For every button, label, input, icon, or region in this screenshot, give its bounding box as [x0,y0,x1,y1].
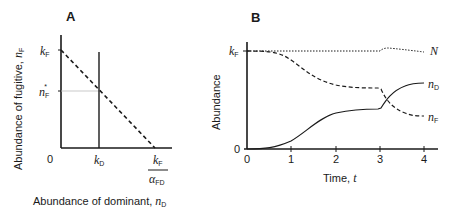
panel-b: B kF 0 0 1 2 3 4 N nD nF Time, t Abund [210,10,439,185]
panel-a: A kF nF* 0 kD kF αFD Abundance of domina… [11,9,172,208]
panel-a-xtick-label-0: 0 [47,153,53,165]
panel-b-ytick-label-kF: kF [229,44,239,58]
panel-a-ytick-label-nF-star: nF* [39,83,49,99]
series-nF-line [247,51,424,116]
panel-b-xtick-label-1: 1 [288,153,294,165]
panel-a-fugitive-isocline [61,50,155,148]
series-nD-line [247,83,424,149]
panel-a-xtick-label-kF-over-alphaFD: kF αFD [148,153,168,186]
series-N-line [247,48,424,52]
panel-b-ytick-label-0: 0 [234,143,240,155]
svg-text:kF: kF [153,153,163,167]
panel-b-xtick-label-2: 2 [333,153,339,165]
svg-text:αFD: αFD [149,172,165,186]
panel-b-xtick-label-0: 0 [244,153,250,165]
panel-a-xtick-label-kD: kD [94,153,104,167]
figure: A kF nF* 0 kD kF αFD Abundance of domina… [0,0,451,223]
series-N-label: N [429,44,439,58]
panel-a-ytick-label-kF: kF [40,44,50,58]
series-nD-label: nD [428,77,439,91]
panel-a-y-axis-title: Abundance of fugitive, nF [11,48,25,170]
panel-b-title: B [251,10,260,25]
panel-b-x-axis-title: Time, t [323,171,357,185]
series-nF-label: nF [428,110,438,124]
panel-b-y-axis-title: Abundance [210,74,222,130]
panel-b-xtick-label-4: 4 [421,153,427,165]
panel-b-xtick-label-3: 3 [377,153,383,165]
panel-a-x-axis-title: Abundance of dominant, nD [33,194,166,208]
panel-a-title: A [66,9,76,24]
